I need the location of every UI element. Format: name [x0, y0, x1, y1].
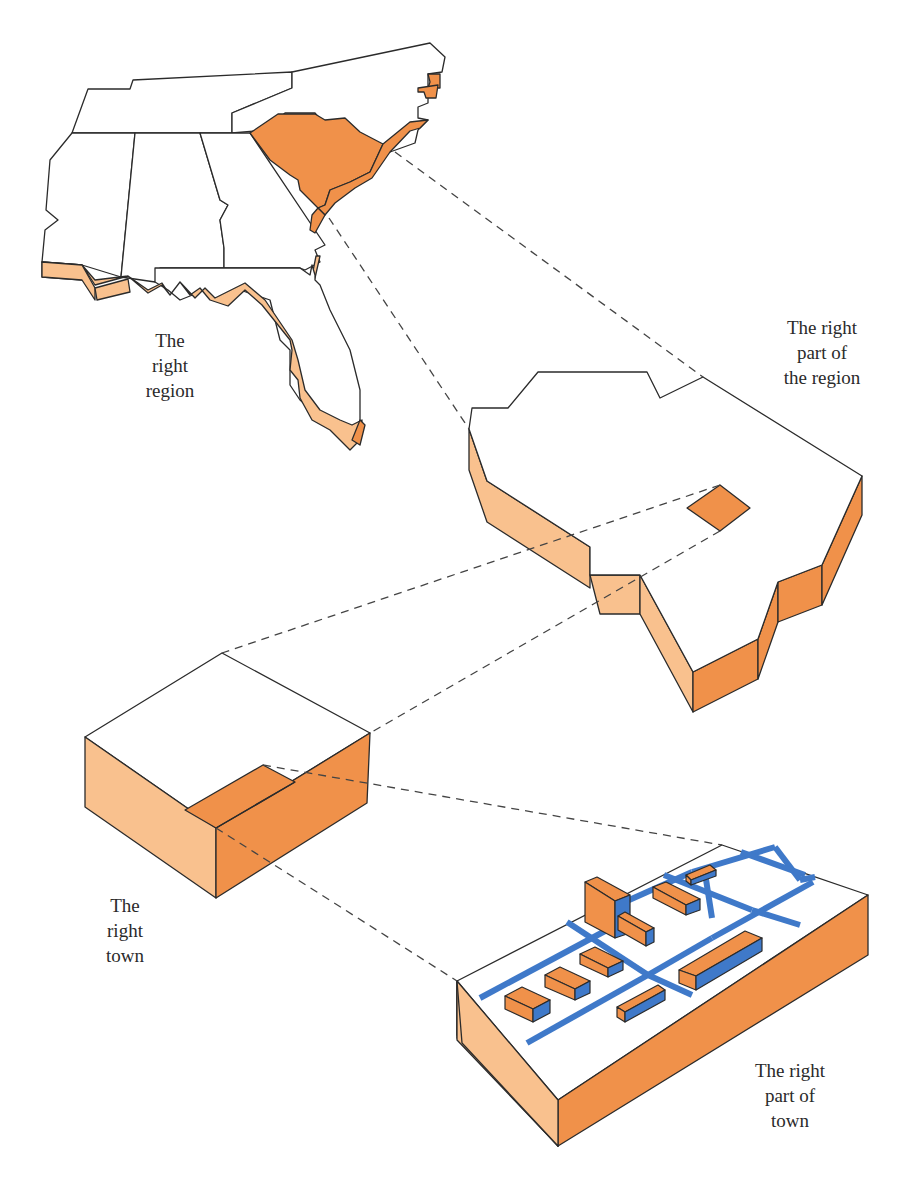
zoom-diagram-svg	[0, 0, 917, 1181]
regional-map	[42, 43, 445, 450]
town-block	[85, 653, 370, 898]
label-part-of-region: The right part of the region	[752, 315, 892, 390]
label-region: The right region	[130, 328, 210, 403]
state-west	[42, 133, 135, 277]
region-part-slab	[469, 372, 862, 712]
diagram-canvas: The right region The right part of the r…	[0, 0, 917, 1181]
label-part-of-town: The right part of town	[735, 1058, 845, 1133]
label-town: The right town	[90, 893, 160, 968]
